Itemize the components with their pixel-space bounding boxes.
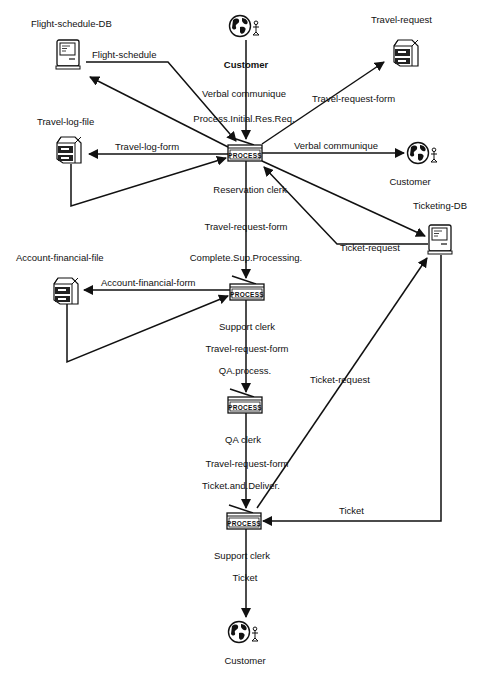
edge-label-ticket-request-1: Ticket-request [340,242,400,253]
edge-label-ticket-out: Ticket [233,572,258,583]
edge-label-ticket: Ticket [339,505,364,516]
process-label-complete-sup-processing: Complete.Sup.Processing. [190,252,302,263]
computer-icon [56,40,80,69]
globe-person-icon [229,622,259,643]
edge-label-travel-log-form: Travel-log-form [115,141,179,152]
workflow-diagram: PROCESS [0,0,484,675]
edge-label-verbal-communique-out: Verbal communique [294,140,378,151]
edge-label-ticket-request-2: Ticket-request [310,374,370,385]
node-label-travel-request: Travel-request [371,14,432,25]
edge-label-verbal-communique-in: Verbal communique [202,88,286,99]
edge-label-flight-schedule: Flight-schedule [92,49,156,60]
process-icon [228,137,262,161]
node-label-customer-bottom: Customer [224,655,265,666]
computer-icon [428,225,452,254]
node-label-customer-right: Customer [389,176,430,187]
process-icon [228,389,262,413]
edge-label-travel-request-form-out: Travel-request-form [312,93,395,104]
process-label-initial-res-req: Process.Initial.Res.Req. [193,113,294,124]
actor-label-support-clerk-1: Support clerk [219,321,275,332]
edge-label-travel-request-form-1: Travel-request-form [204,221,287,232]
node-label-account-financial-file: Account-financial-file [16,252,104,263]
node-label-flight-schedule-db: Flight-schedule-DB [31,18,112,29]
node-label-ticketing-db: Ticketing-DB [413,200,467,211]
globe-person-icon [408,143,438,164]
process-label-ticket-and-deliver: Ticket.and.Deliver. [202,480,280,491]
file-cabinet-icon [394,40,418,66]
globe-person-icon [230,16,260,37]
node-label-customer-top: Customer [224,59,268,70]
actor-label-reservation-clerk: Reservation clerk [213,184,286,195]
file-cabinet-icon [57,137,81,163]
process-icon [227,505,261,529]
process-icon [230,276,264,300]
node-label-travel-log-file: Travel-log-file [37,116,94,127]
actor-label-support-clerk-2: Support clerk [214,550,270,561]
actor-label-qa-clerk: QA clerk [225,434,261,445]
process-label-qa-process: QA.process. [219,365,271,376]
edge-label-travel-request-form-2: Travel-request-form [205,343,288,354]
file-cabinet-icon [54,278,78,304]
edge-label-travel-request-form-3: Travel-request-form [205,458,288,469]
edge-label-account-financial-form: Account-financial-form [101,277,196,288]
